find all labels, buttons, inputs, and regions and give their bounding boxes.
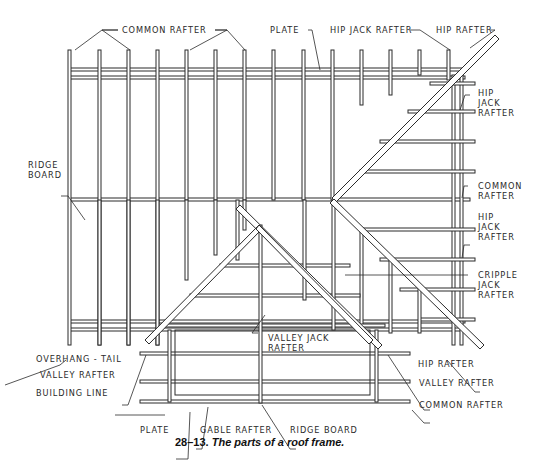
label-plate-top: PLATE	[270, 25, 299, 35]
label-ridge-board-bottom: RIDGE BOARD	[290, 425, 358, 435]
label-valley-rafter-right: VALLEY RAFTER	[419, 378, 495, 388]
figure-caption-text: The parts of a roof frame.	[212, 436, 345, 448]
label-hip-rafter-bottom: HIP RAFTER	[418, 359, 475, 369]
label-building-line: BUILDING LINE	[36, 388, 108, 398]
label-common-rafter-top: COMMON RAFTER	[122, 25, 207, 35]
label-common-rafter-bottom: COMMON RAFTER	[419, 400, 504, 410]
figure-caption: 28–13. The parts of a roof frame.	[175, 436, 344, 448]
label-hip-rafter-top: HIP RAFTER	[436, 25, 493, 35]
figure-number: 28–13.	[175, 436, 209, 448]
label-cripple-jack-rafter: CRIPPLE JACK RAFTER	[478, 270, 518, 300]
label-ridge-board-left: RIDGE BOARD	[28, 160, 62, 180]
label-hip-jack-rafter-right-2: HIP JACK RAFTER	[478, 212, 515, 242]
roof-frame-diagram: COMMON RAFTER PLATE HIP JACK RAFTER HIP …	[0, 0, 542, 467]
label-overhang-tail: OVERHANG - TAIL	[36, 354, 122, 364]
label-common-rafter-right: COMMON RAFTER	[478, 181, 522, 201]
hip-rafter-upper	[332, 35, 499, 202]
label-hip-jack-rafter-right-1: HIP JACK RAFTER	[478, 88, 515, 118]
label-hip-jack-rafter-top: HIP JACK RAFTER	[330, 25, 412, 35]
label-valley-jack-rafter: VALLEY JACK RAFTER	[268, 333, 329, 353]
label-valley-rafter-left: VALLEY RAFTER	[40, 370, 116, 380]
label-gable-rafter: GABLE RAFTER	[200, 425, 272, 435]
label-plate-bottom: PLATE	[140, 425, 169, 435]
